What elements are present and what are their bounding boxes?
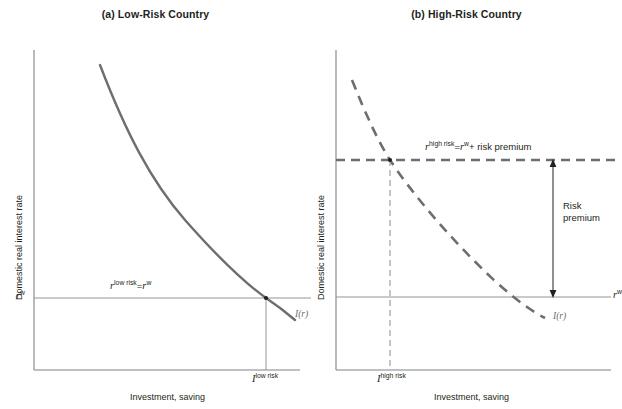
panel-a-plot <box>0 0 311 409</box>
equilibrium-rate-equation: rlow risk=rw <box>110 281 151 292</box>
world-rate-superscript: w <box>20 289 25 296</box>
y-axis-title: Domestic real interest rate <box>14 195 24 300</box>
risk-premium-annotation-line1: Risk <box>563 200 600 212</box>
y-axis-title: Domestic real interest rate <box>316 195 326 300</box>
world-rate-superscript: w <box>617 288 622 295</box>
equation-lhs-superscript: low risk <box>114 279 137 286</box>
panel-low-risk-country: (a) Low-Risk Country Domestic real inter… <box>0 0 311 409</box>
risk-adjusted-rate-equation: rhigh risk=rw+ risk premium <box>425 142 532 153</box>
quantity-superscript: high risk <box>381 372 406 379</box>
equation-rhs-superscript: w <box>146 279 151 286</box>
equilibrium-point-marker <box>264 296 268 300</box>
quantity-tick-label: Ilow risk <box>252 374 278 385</box>
equilibrium-point-marker <box>388 158 392 162</box>
world-rate-tick-label: rw <box>16 291 25 302</box>
risk-premium-annotation-line2: premium <box>563 212 600 224</box>
investment-curve-label: I(r) <box>295 309 308 319</box>
investment-curve-label: I(r) <box>553 311 566 321</box>
equation-addend: + risk premium <box>469 141 532 152</box>
investment-demand-curve <box>352 80 545 318</box>
panel-high-risk-country: (b) High-Risk Country Domestic real inte… <box>311 0 622 409</box>
equation-lhs-superscript: high risk <box>429 140 454 147</box>
x-axis-title: Investment, saving <box>434 392 509 402</box>
x-axis-title: Investment, saving <box>130 392 205 402</box>
quantity-superscript: low risk <box>256 372 279 379</box>
risk-premium-annotation: Risk premium <box>563 200 600 224</box>
quantity-tick-label: Ihigh risk <box>377 374 406 385</box>
world-rate-tick-label: rw <box>613 290 622 301</box>
